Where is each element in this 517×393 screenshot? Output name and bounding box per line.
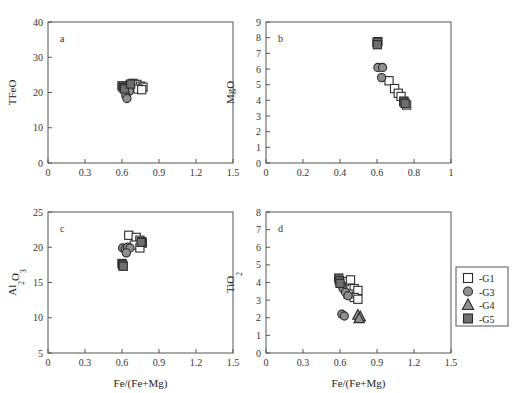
figure-root: 00.30.60.91.21.5010203040aTFeO 00.20.40.… bbox=[0, 0, 517, 393]
panel-a-ylabel: TFeO bbox=[6, 80, 18, 106]
data-point bbox=[127, 80, 135, 88]
panel-d-svg: 00.30.60.91.21.5012345678dTiO2Fe/(Fe+Mg)… bbox=[258, 190, 517, 393]
panel-a-svg: 00.30.60.91.21.5010203040aTFeO bbox=[0, 0, 250, 196]
data-point bbox=[344, 292, 352, 300]
data-point bbox=[137, 238, 145, 246]
legend-marker-G1 bbox=[464, 274, 473, 283]
panel-c-xticklabel: 0.3 bbox=[79, 357, 92, 368]
panel-b-yticklabel: 1 bbox=[256, 142, 261, 153]
panel-b-xticklabel: 0 bbox=[264, 167, 269, 178]
panel-b-ylabel: MgO bbox=[224, 81, 236, 104]
panel-d-xticklabel: 0.9 bbox=[371, 357, 384, 368]
panel-c-yticklabel: 15 bbox=[33, 277, 43, 288]
data-point bbox=[401, 99, 409, 107]
data-point bbox=[340, 312, 348, 320]
data-point bbox=[336, 279, 344, 287]
panel-c-xticklabel: 1.5 bbox=[227, 357, 240, 368]
panel-a-xticklabel: 0.3 bbox=[79, 167, 92, 178]
panel-d-yticklabel: 6 bbox=[256, 242, 261, 253]
panel-a-content: 00.30.60.91.21.5010203040aTFeO bbox=[6, 17, 239, 179]
legend-label-G4: -G4 bbox=[479, 300, 495, 311]
data-point bbox=[378, 63, 386, 71]
panel-c-xticklabel: 1.2 bbox=[190, 357, 203, 368]
panel-c-letter: c bbox=[60, 223, 65, 234]
panel-d-xticklabel: 0.6 bbox=[334, 357, 347, 368]
panel-c-ylabel: Al2O3 bbox=[6, 269, 28, 296]
panel-c-yticklabel: 5 bbox=[38, 348, 43, 359]
panel-d-xlabel: Fe/(Fe+Mg) bbox=[332, 377, 386, 390]
panel-c-yticklabel: 20 bbox=[33, 242, 43, 253]
panel-c-xticklabel: 0 bbox=[46, 357, 51, 368]
panel-b-xticklabel: 0.2 bbox=[297, 167, 310, 178]
panel-b-yticklabel: 3 bbox=[256, 111, 261, 122]
panel-b-frame bbox=[266, 22, 451, 163]
panel-b-xticklabel: 0.4 bbox=[334, 167, 347, 178]
panel-b-yticklabel: 5 bbox=[256, 79, 261, 90]
panel-b-svg: 00.20.40.60.810123456789bMgO bbox=[258, 0, 508, 196]
data-point bbox=[346, 276, 354, 284]
panel-b-yticklabel: 8 bbox=[256, 32, 261, 43]
panel-d-yticklabel: 7 bbox=[256, 224, 261, 235]
panel-d-yticklabel: 2 bbox=[256, 312, 261, 323]
panel-b-xticklabel: 0.8 bbox=[408, 167, 421, 178]
panel-c: 00.30.60.91.21.5510152025cAl2O3Fe/(Fe+Mg… bbox=[0, 190, 250, 393]
panel-c-xticklabel: 0.6 bbox=[116, 357, 129, 368]
legend-label-G5: -G5 bbox=[479, 314, 495, 325]
panel-d-yticklabel: 1 bbox=[256, 330, 261, 341]
panel-c-xticklabel: 0.9 bbox=[153, 357, 166, 368]
panel-d-yticklabel: 8 bbox=[256, 207, 261, 218]
panel-a: 00.30.60.91.21.5010203040aTFeO bbox=[0, 0, 250, 196]
panel-b-content: 00.20.40.60.810123456789bMgO bbox=[224, 17, 454, 179]
panel-d-yticklabel: 0 bbox=[256, 348, 261, 359]
panel-b-yticklabel: 4 bbox=[256, 95, 261, 106]
panel-b-yticklabel: 7 bbox=[256, 48, 261, 59]
panel-b-yticklabel: 0 bbox=[256, 158, 261, 169]
panel-a-yticklabel: 20 bbox=[33, 87, 43, 98]
data-point bbox=[122, 249, 130, 257]
panel-d-xticklabel: 1.5 bbox=[445, 357, 458, 368]
panel-c-xlabel: Fe/(Fe+Mg) bbox=[114, 377, 168, 390]
panel-d-content: 00.30.60.91.21.5012345678dTiO2Fe/(Fe+Mg) bbox=[224, 207, 457, 391]
panel-d: 00.30.60.91.21.5012345678dTiO2Fe/(Fe+Mg)… bbox=[258, 190, 517, 393]
legend-label-G1: -G1 bbox=[479, 273, 495, 284]
panel-c-yticklabel: 25 bbox=[33, 207, 43, 218]
panel-a-xticklabel: 1.5 bbox=[227, 167, 240, 178]
panel-d-xticklabel: 1.2 bbox=[408, 357, 421, 368]
legend-label-G3: -G3 bbox=[479, 287, 495, 298]
panel-b-yticklabel: 9 bbox=[256, 17, 261, 28]
data-point bbox=[119, 262, 127, 270]
panel-c-svg: 00.30.60.91.21.5510152025cAl2O3Fe/(Fe+Mg… bbox=[0, 190, 250, 393]
panel-a-xticklabel: 1.2 bbox=[190, 167, 203, 178]
panel-b-yticklabel: 2 bbox=[256, 126, 261, 137]
data-point bbox=[138, 86, 146, 94]
panel-b-xticklabel: 1 bbox=[449, 167, 454, 178]
legend-marker-G5 bbox=[464, 314, 473, 323]
panel-a-xticklabel: 0 bbox=[46, 167, 51, 178]
legend-group: -G1-G3-G4-G5 bbox=[456, 267, 508, 326]
data-point bbox=[373, 41, 381, 49]
panel-b-yticklabel: 6 bbox=[256, 64, 261, 75]
panel-d-yticklabel: 4 bbox=[256, 277, 261, 288]
panel-a-letter: a bbox=[60, 33, 65, 44]
panel-b: 00.20.40.60.810123456789bMgO bbox=[258, 0, 508, 196]
data-point bbox=[378, 74, 386, 82]
panel-d-frame bbox=[266, 212, 451, 353]
panel-d-xticklabel: 0 bbox=[264, 357, 269, 368]
panel-d-yticklabel: 5 bbox=[256, 259, 261, 270]
panel-b-letter: b bbox=[278, 33, 283, 44]
panel-a-yticklabel: 0 bbox=[38, 158, 43, 169]
panel-a-yticklabel: 40 bbox=[33, 17, 43, 28]
data-point bbox=[123, 94, 131, 102]
data-point bbox=[354, 295, 362, 303]
panel-d-letter: d bbox=[278, 223, 283, 234]
panel-a-yticklabel: 30 bbox=[33, 52, 43, 63]
panel-a-xticklabel: 0.6 bbox=[116, 167, 129, 178]
panel-c-yticklabel: 10 bbox=[33, 312, 43, 323]
panel-c-content: 00.30.60.91.21.5510152025cAl2O3Fe/(Fe+Mg… bbox=[6, 207, 239, 391]
panel-d-yticklabel: 3 bbox=[256, 295, 261, 306]
panel-a-xticklabel: 0.9 bbox=[153, 167, 166, 178]
panel-b-xticklabel: 0.6 bbox=[371, 167, 384, 178]
panel-a-yticklabel: 10 bbox=[33, 122, 43, 133]
legend-marker-G3 bbox=[464, 287, 473, 296]
panel-d-xticklabel: 0.3 bbox=[297, 357, 310, 368]
